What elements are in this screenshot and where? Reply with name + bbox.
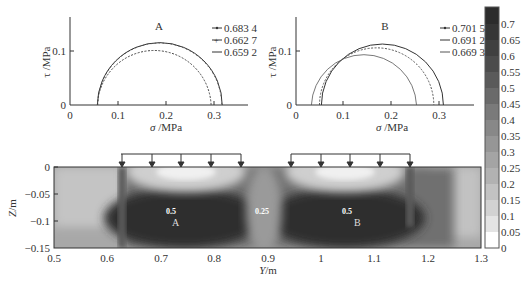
svg-text:1: 1 — [318, 252, 324, 264]
contour-plot: 0 −0.05 −0.1 −0.15 0.5 0.6 0.7 0.8 0.9 1… — [6, 152, 488, 276]
svg-text:−0.05: −0.05 — [25, 188, 51, 200]
svg-text:0.35: 0.35 — [501, 130, 521, 142]
svg-text:0.1: 0.1 — [278, 45, 292, 57]
contour-xlabel: Y/m — [259, 264, 277, 276]
svg-text:0.25: 0.25 — [255, 207, 269, 216]
legend-b-1: 0.701 5 — [452, 22, 486, 34]
svg-text:0.05: 0.05 — [501, 226, 521, 238]
svg-text:0.2: 0.2 — [501, 178, 515, 190]
mohr-plot-b: 0 0.1 0 0.1 0.2 0.3 σ /MPa τ /MPa B 0.70… — [266, 17, 486, 133]
svg-text:0.5: 0.5 — [342, 207, 352, 216]
figure: 0 0.1 0 0.1 0.2 0.3 σ /MPa τ /MPa A + 0.… — [0, 0, 528, 282]
svg-text:0.1: 0.1 — [52, 45, 66, 57]
svg-text:0.5: 0.5 — [166, 207, 176, 216]
svg-text:0.55: 0.55 — [501, 66, 521, 78]
svg-text:0.7: 0.7 — [154, 252, 168, 264]
contour-ylabel: Z/m — [6, 199, 18, 217]
legend-b-3: 0.669 3 — [452, 46, 486, 58]
plot-a-xlabel: σ /MPa — [150, 121, 182, 133]
svg-text:0.1: 0.1 — [501, 210, 515, 222]
svg-text:0.6: 0.6 — [501, 50, 515, 62]
mohr-plot-a: 0 0.1 0 0.1 0.2 0.3 σ /MPa τ /MPa A + 0.… — [40, 17, 258, 133]
svg-text:0: 0 — [501, 242, 507, 254]
svg-text:B: B — [354, 217, 361, 228]
colorbar: 0 0.05 0.1 0.15 0.2 0.25 0.3 0.35 0.4 0.… — [485, 7, 521, 254]
svg-text:A: A — [172, 217, 180, 228]
svg-text:0.8: 0.8 — [207, 252, 221, 264]
svg-text:1.3: 1.3 — [474, 252, 488, 264]
svg-text:0: 0 — [61, 99, 67, 111]
svg-text:−0.1: −0.1 — [30, 215, 50, 227]
svg-text:0.3: 0.3 — [432, 109, 446, 121]
svg-text:0.6: 0.6 — [100, 252, 114, 264]
svg-text:0.2: 0.2 — [384, 109, 398, 121]
legend-a-1: 0.683 4 — [224, 22, 258, 34]
svg-text:0.4: 0.4 — [501, 114, 515, 126]
svg-text:0: 0 — [67, 109, 73, 121]
plot-a-title: A — [155, 20, 163, 32]
svg-text:0.25: 0.25 — [501, 162, 521, 174]
svg-text:0.2: 0.2 — [159, 109, 173, 121]
svg-text:0.3: 0.3 — [207, 109, 221, 121]
svg-text:0.5: 0.5 — [47, 252, 61, 264]
svg-text:0: 0 — [287, 99, 293, 111]
svg-text:1.1: 1.1 — [367, 252, 381, 264]
svg-text:0.45: 0.45 — [501, 98, 521, 110]
svg-text:0.3: 0.3 — [501, 146, 515, 158]
svg-text:0.15: 0.15 — [501, 194, 521, 206]
svg-text:0.1: 0.1 — [336, 109, 350, 121]
legend-b-2: 0.691 2 — [452, 34, 485, 46]
svg-text:0.1: 0.1 — [111, 109, 125, 121]
svg-text:0.5: 0.5 — [501, 82, 515, 94]
svg-text:0.65: 0.65 — [501, 34, 521, 46]
legend-a-2: 0.662 7 — [224, 34, 258, 46]
plot-b-xlabel: σ /MPa — [376, 121, 408, 133]
svg-text:1.2: 1.2 — [421, 252, 435, 264]
svg-text:0: 0 — [45, 161, 51, 173]
svg-text:0.9: 0.9 — [261, 252, 275, 264]
plot-a-ylabel: τ /MPa — [40, 46, 52, 77]
plot-b-ylabel: τ /MPa — [266, 46, 278, 77]
svg-text:+: + — [214, 36, 219, 45]
plot-b-title: B — [381, 20, 388, 32]
svg-text:0: 0 — [293, 109, 299, 121]
legend-a-3: 0.659 2 — [224, 46, 257, 58]
svg-text:0.7: 0.7 — [501, 18, 515, 30]
